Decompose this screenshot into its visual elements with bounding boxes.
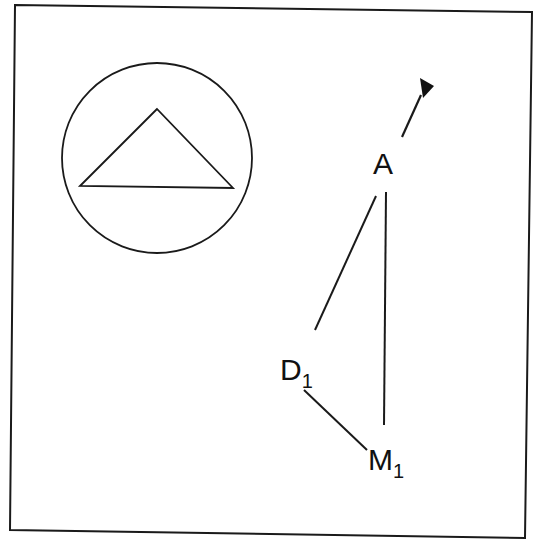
inset-symbol [62,63,252,253]
node-label-d1: D1 [280,353,313,392]
edge-d1-m1 [304,390,367,450]
direction-arrow [402,78,434,137]
node-label-a: A [373,147,393,180]
frame-border [10,5,532,538]
arrowhead-icon [420,78,434,98]
diagram-canvas: A D1 M1 [0,0,536,544]
node-label-m1-main: M [368,443,393,476]
inset-circle [62,63,252,253]
node-label-m1: M1 [368,443,404,482]
node-label-m1-subscript: 1 [393,460,404,482]
node-label-d1-main: D [280,353,302,386]
triangle-icon [80,109,233,188]
edge-a-d1 [315,196,376,330]
arrow-shaft [402,95,421,137]
node-label-d1-subscript: 1 [302,370,313,392]
edge-a-m1 [384,192,386,425]
